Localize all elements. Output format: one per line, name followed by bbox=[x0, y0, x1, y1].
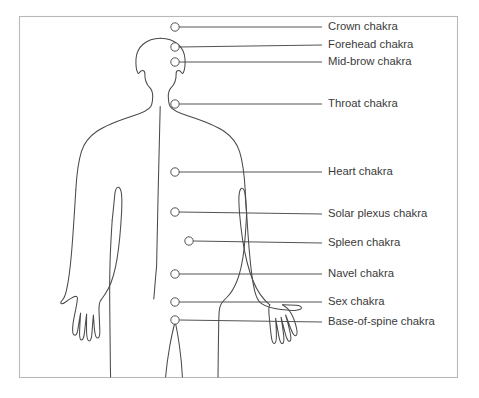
marker-forehead-chakra[interactable] bbox=[171, 43, 179, 51]
marker-mid-brow-chakra[interactable] bbox=[171, 58, 179, 66]
marker-crown-chakra[interactable] bbox=[171, 23, 179, 31]
marker-solar-plexus-chakra[interactable] bbox=[171, 208, 179, 216]
chakra-diagram-canvas: Chakra locations on the human body bbox=[0, 0, 479, 398]
label-solar-plexus-chakra: Solar plexus chakra bbox=[328, 207, 428, 219]
marker-spleen-chakra[interactable] bbox=[185, 237, 193, 245]
label-throat-chakra: Throat chakra bbox=[328, 97, 398, 109]
marker-throat-chakra[interactable] bbox=[171, 100, 179, 108]
label-navel-chakra: Navel chakra bbox=[328, 267, 395, 279]
label-mid-brow-chakra: Mid-brow chakra bbox=[328, 55, 412, 67]
label-base-of-spine-chakra: Base-of-spine chakra bbox=[328, 315, 435, 327]
marker-navel-chakra[interactable] bbox=[171, 270, 179, 278]
label-crown-chakra: Crown chakra bbox=[328, 20, 398, 32]
label-heart-chakra: Heart chakra bbox=[328, 165, 393, 177]
label-spleen-chakra: Spleen chakra bbox=[328, 236, 401, 248]
label-forehead-chakra: Forehead chakra bbox=[328, 38, 414, 50]
chakra-diagram-figure: Chakra locations on the human body bbox=[0, 0, 479, 398]
label-sex-chakra: Sex chakra bbox=[328, 295, 385, 307]
marker-base-of-spine-chakra[interactable] bbox=[171, 316, 179, 324]
marker-sex-chakra[interactable] bbox=[171, 298, 179, 306]
marker-heart-chakra[interactable] bbox=[171, 168, 179, 176]
